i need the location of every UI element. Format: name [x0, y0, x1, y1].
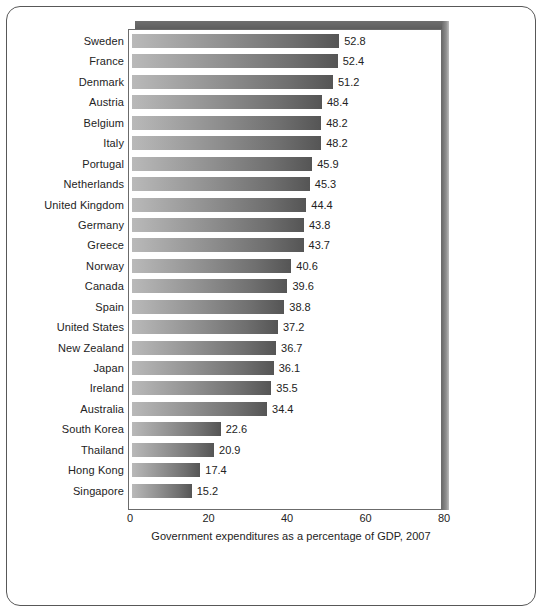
bar-row: Netherlands45.3 — [0, 174, 483, 194]
bar-value-label: 35.5 — [276, 381, 297, 395]
category-label: Australia — [80, 399, 124, 419]
bar-track: 44.4 — [132, 198, 306, 212]
bar-value-label: 43.7 — [309, 238, 330, 252]
bar-track: 48.4 — [132, 95, 322, 109]
bar — [132, 54, 338, 68]
bar-value-label: 51.2 — [338, 75, 359, 89]
bar-row: Australia34.4 — [0, 399, 483, 419]
x-tick-label: 60 — [359, 512, 371, 524]
x-tick-label: 40 — [281, 512, 293, 524]
x-axis-ticks: 020406080 — [0, 512, 483, 528]
bar — [132, 443, 214, 457]
category-label: Belgium — [84, 113, 124, 133]
bar-track: 22.6 — [132, 422, 221, 436]
bar — [132, 463, 200, 477]
bar-track: 34.4 — [132, 402, 267, 416]
x-axis-title: Government expenditures as a percentage … — [132, 530, 450, 542]
bar-track: 36.7 — [132, 341, 276, 355]
category-label: Germany — [78, 215, 124, 235]
bar-row: Singapore15.2 — [0, 481, 483, 501]
category-label: Netherlands — [64, 174, 124, 194]
bar-value-label: 15.2 — [197, 484, 218, 498]
bar-row: Spain38.8 — [0, 297, 483, 317]
bar-value-label: 34.4 — [272, 402, 293, 416]
bar-value-label: 20.9 — [219, 443, 240, 457]
bar-rows: Sweden52.8France52.4Denmark51.2Austria48… — [0, 31, 483, 501]
bar-row: Japan36.1 — [0, 358, 483, 378]
bar-value-label: 48.4 — [327, 95, 348, 109]
category-label: Italy — [103, 133, 124, 153]
bar-value-label: 40.6 — [296, 259, 317, 273]
bar-row: Belgium48.2 — [0, 113, 483, 133]
bar-row: Denmark51.2 — [0, 72, 483, 92]
bar-row: France52.4 — [0, 51, 483, 71]
bar-row: United States37.2 — [0, 317, 483, 337]
bar — [132, 381, 271, 395]
bar-value-label: 52.4 — [343, 54, 364, 68]
category-label: Sweden — [84, 31, 124, 51]
bar-row: Austria48.4 — [0, 92, 483, 112]
bar — [132, 177, 310, 191]
category-label: Denmark — [79, 72, 124, 92]
bar-value-label: 37.2 — [283, 320, 304, 334]
bar-track: 43.8 — [132, 218, 304, 232]
bar-value-label: 38.8 — [289, 300, 310, 314]
bar-row: Ireland35.5 — [0, 378, 483, 398]
category-label: Thailand — [81, 440, 124, 460]
bar-track: 17.4 — [132, 463, 200, 477]
bar-row: Germany43.8 — [0, 215, 483, 235]
bar-value-label: 45.3 — [315, 177, 336, 191]
category-label: Spain — [95, 297, 124, 317]
category-label: Singapore — [73, 481, 124, 501]
bar-track: 15.2 — [132, 484, 192, 498]
bar-row: Portugal45.9 — [0, 154, 483, 174]
bar-track: 38.8 — [132, 300, 284, 314]
bar-value-label: 48.2 — [326, 116, 347, 130]
category-label: Portugal — [82, 154, 124, 174]
bar-value-label: 36.1 — [279, 361, 300, 375]
bar-track: 35.5 — [132, 381, 271, 395]
bar — [132, 157, 312, 171]
bar — [132, 34, 339, 48]
bar-row: Hong Kong17.4 — [0, 460, 483, 480]
bar-row: Italy48.2 — [0, 133, 483, 153]
bar — [132, 279, 287, 293]
bar-track: 52.4 — [132, 54, 338, 68]
bar — [132, 361, 274, 375]
bar-track: 40.6 — [132, 259, 291, 273]
category-label: Greece — [87, 235, 124, 255]
bar-value-label: 36.7 — [281, 341, 302, 355]
bar-track: 52.8 — [132, 34, 339, 48]
category-label: France — [89, 51, 124, 71]
x-tick-label: 0 — [127, 512, 133, 524]
bar-value-label: 45.9 — [317, 157, 338, 171]
category-label: Ireland — [90, 378, 124, 398]
bar — [132, 75, 333, 89]
bar-value-label: 52.8 — [344, 34, 365, 48]
bar — [132, 259, 291, 273]
category-label: United States — [57, 317, 124, 337]
bar-row: United Kingdom44.4 — [0, 195, 483, 215]
bar-track: 48.2 — [132, 136, 321, 150]
bar — [132, 218, 304, 232]
bar — [132, 422, 221, 436]
category-label: Hong Kong — [68, 460, 124, 480]
bar-track: 45.9 — [132, 157, 312, 171]
bar-track: 20.9 — [132, 443, 214, 457]
bar-track: 36.1 — [132, 361, 274, 375]
bar — [132, 300, 284, 314]
bar — [132, 198, 306, 212]
bar-track: 51.2 — [132, 75, 333, 89]
category-label: New Zealand — [58, 338, 124, 358]
bar-row: South Korea22.6 — [0, 419, 483, 439]
bar-value-label: 48.2 — [326, 136, 347, 150]
category-label: South Korea — [62, 419, 124, 439]
category-label: Norway — [86, 256, 124, 276]
bar-value-label: 22.6 — [226, 422, 247, 436]
bar-value-label: 44.4 — [311, 198, 332, 212]
bar — [132, 402, 267, 416]
bar-track: 48.2 — [132, 116, 321, 130]
x-tick-label: 80 — [438, 512, 450, 524]
category-label: Austria — [89, 92, 124, 112]
